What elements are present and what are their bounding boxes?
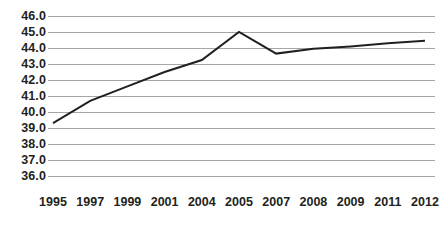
- x-axis-tick-label: 2011: [374, 196, 401, 209]
- gridline: [48, 144, 435, 145]
- plot-area: [48, 16, 435, 176]
- gridline: [48, 16, 435, 17]
- y-axis-tick-label: 39.0: [2, 122, 46, 135]
- gridline: [48, 160, 435, 161]
- y-axis-tick-label: 45.0: [2, 26, 46, 39]
- x-axis-tick-label: 2007: [262, 196, 290, 209]
- x-axis-tick-label: 2001: [151, 196, 179, 209]
- gridline: [48, 32, 435, 33]
- y-axis-tick-label: 44.0: [2, 42, 46, 55]
- x-axis-tick-label: 2009: [337, 196, 365, 209]
- gridline: [48, 80, 435, 81]
- x-axis-tick-label: 2005: [225, 196, 253, 209]
- x-axis-tick-label: 2012: [411, 196, 439, 209]
- x-axis-tick-label: 1999: [113, 196, 141, 209]
- gridline: [48, 128, 435, 129]
- gridline: [48, 48, 435, 49]
- y-axis-tick-label: 46.0: [2, 10, 46, 23]
- y-axis-tick-label: 40.0: [2, 106, 46, 119]
- y-axis-tick-label: 37.0: [2, 154, 46, 167]
- gridline: [48, 176, 435, 177]
- gridline: [48, 96, 435, 97]
- x-axis-tick-label: 1997: [76, 196, 104, 209]
- y-axis-tick-label: 43.0: [2, 58, 46, 71]
- gridline: [48, 112, 435, 113]
- x-axis-tick-label: 2004: [188, 196, 216, 209]
- line-chart: 46.045.044.043.042.041.040.039.038.037.0…: [0, 0, 442, 230]
- y-axis-tick-label: 42.0: [2, 74, 46, 87]
- y-axis-tick-label: 38.0: [2, 138, 46, 151]
- gridline: [48, 64, 435, 65]
- y-axis-tick-label: 41.0: [2, 90, 46, 103]
- x-axis-tick-label: 2008: [299, 196, 327, 209]
- x-axis-tick-label: 1995: [39, 196, 67, 209]
- y-axis-tick-label: 36.0: [2, 170, 46, 183]
